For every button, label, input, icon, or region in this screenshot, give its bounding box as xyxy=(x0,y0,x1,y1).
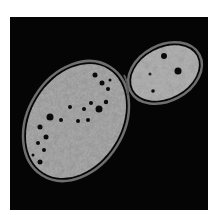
mother-cell xyxy=(1,41,150,200)
yeast-cell-micrograph xyxy=(0,0,216,215)
bud-cell xyxy=(117,30,212,116)
